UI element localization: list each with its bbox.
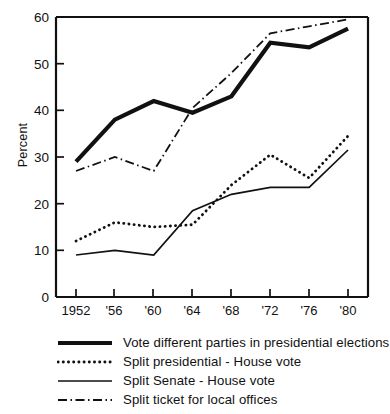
legend-swatch-thin-solid-icon — [57, 374, 113, 388]
plot-frame — [56, 17, 368, 297]
x-tick-label: '64 — [184, 303, 201, 318]
x-tick-label: '76 — [301, 303, 318, 318]
y-tick-label: 30 — [34, 150, 49, 165]
x-tick-label: '80 — [340, 303, 357, 318]
legend-label: Split Senate - House vote — [123, 373, 275, 388]
series-split-senate-house-vote — [76, 150, 348, 255]
legend-item-split-presidential-house-vote: Split presidential - House vote — [57, 352, 301, 371]
legend-swatch-dotted-icon — [57, 355, 113, 369]
chart-canvas: 60 50 40 30 20 10 0 1952 — [0, 0, 390, 330]
series-vote-different-parties — [76, 29, 348, 162]
y-tick-label: 40 — [34, 103, 49, 118]
x-tick-label: '60 — [145, 303, 162, 318]
x-tick-label: '72 — [262, 303, 279, 318]
x-tick-label: '68 — [223, 303, 240, 318]
legend-label: Split ticket for local offices — [123, 392, 277, 407]
legend-item-vote-different-parties: Vote different parties in presidential e… — [57, 333, 389, 352]
y-tick-label: 0 — [41, 290, 49, 305]
series-split-ticket-for-local-offices — [76, 19, 348, 171]
legend-item-split-senate-house-vote: Split Senate - House vote — [57, 371, 275, 390]
x-tick-label: 1952 — [62, 303, 91, 318]
y-tick-label: 50 — [34, 57, 49, 72]
series-split-presidential-house-vote — [76, 136, 348, 241]
y-axis-ticks — [56, 17, 64, 250]
y-tick-label: 10 — [34, 243, 49, 258]
legend-swatch-thick-solid-icon — [57, 336, 113, 350]
legend-item-split-ticket-for-local-offices: Split ticket for local offices — [57, 390, 277, 409]
figure: 60 50 40 30 20 10 0 1952 — [0, 0, 390, 414]
data-series-group — [76, 19, 348, 255]
y-tick-label: 60 — [34, 10, 49, 25]
line-chart: 60 50 40 30 20 10 0 1952 — [0, 0, 390, 330]
chart-legend: Vote different parties in presidential e… — [0, 330, 390, 414]
y-axis-title: Percent — [16, 105, 30, 185]
y-axis-tick-labels: 60 50 40 30 20 10 0 — [34, 10, 49, 305]
legend-label: Split presidential - House vote — [123, 354, 301, 369]
legend-swatch-dash-dot-icon — [57, 393, 113, 407]
x-axis-tick-labels: 1952 '56 '60 '64 '68 '72 '76 '80 — [62, 303, 357, 318]
legend-label: Vote different parties in presidential e… — [123, 335, 389, 350]
y-tick-label: 20 — [34, 197, 49, 212]
x-tick-label: '56 — [106, 303, 123, 318]
x-axis-ticks — [76, 289, 348, 297]
